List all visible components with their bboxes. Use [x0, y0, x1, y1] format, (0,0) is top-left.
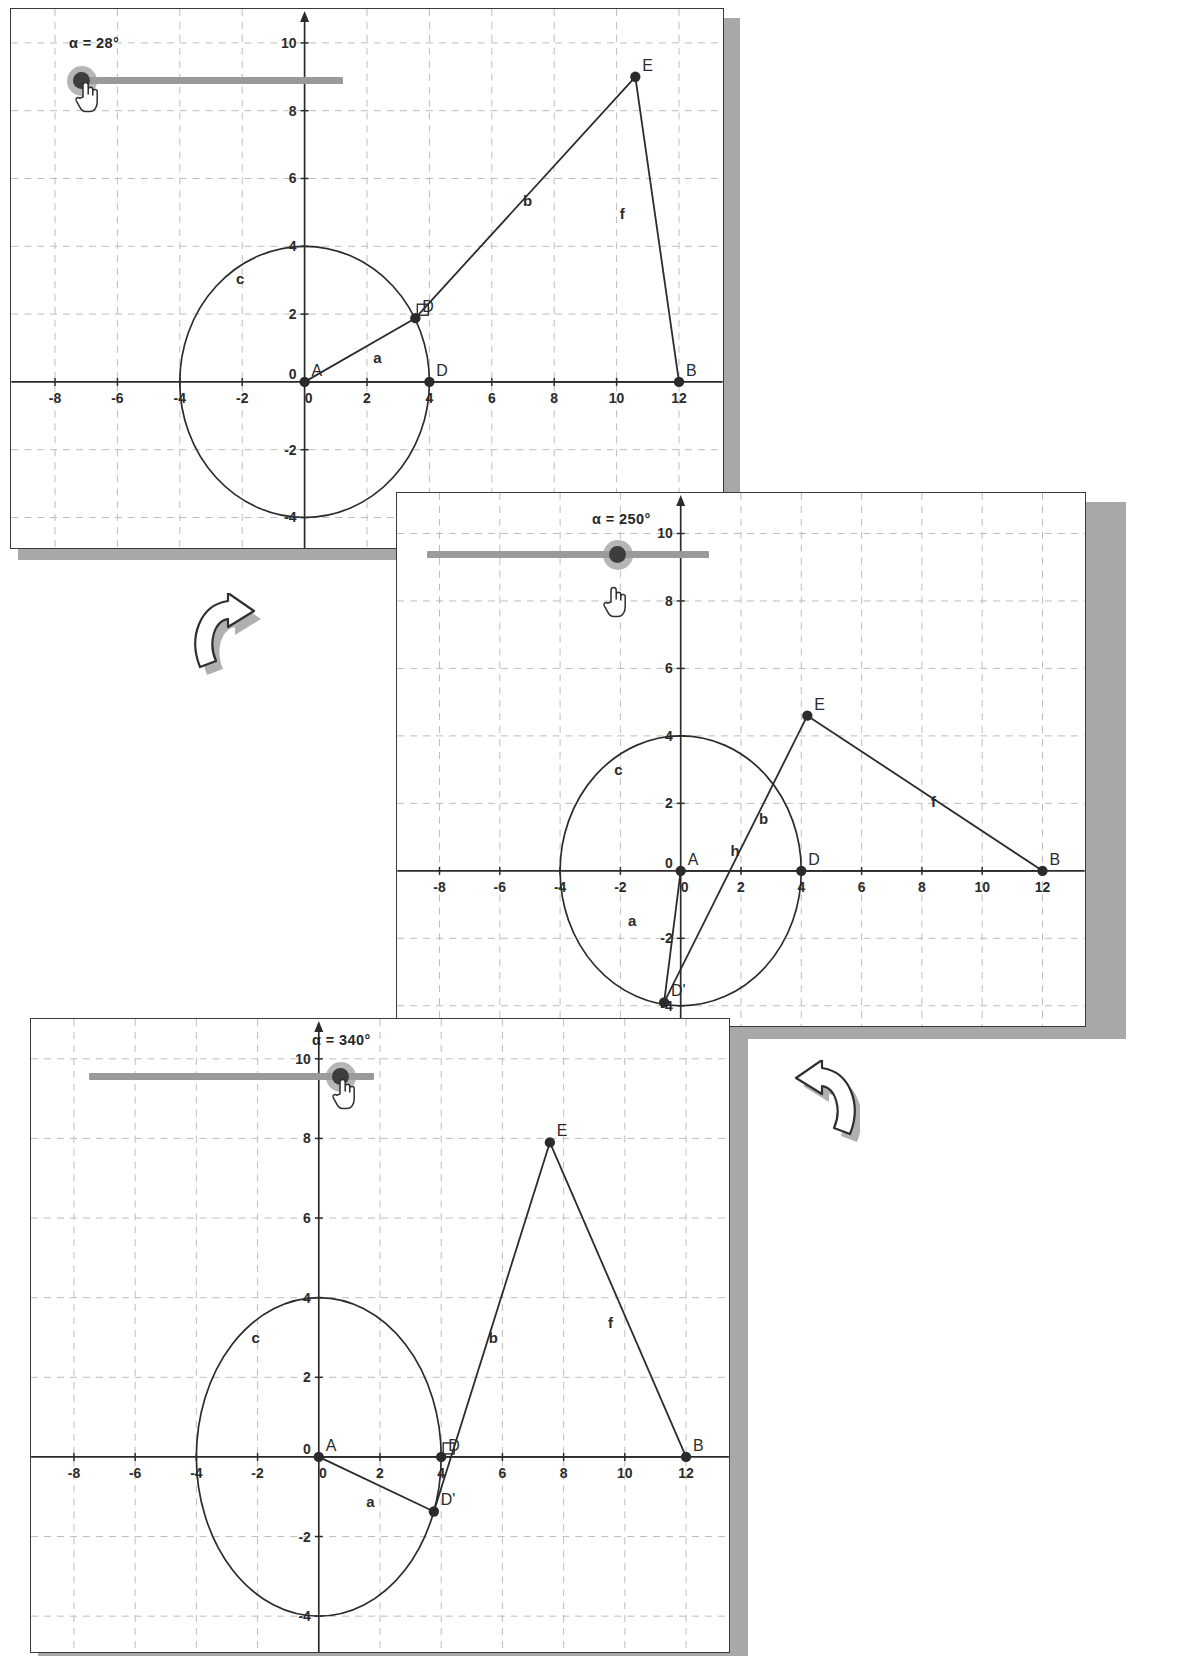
svg-text:-2: -2 — [298, 1529, 311, 1545]
svg-text:A: A — [326, 1437, 337, 1454]
svg-text:6: 6 — [858, 879, 866, 895]
svg-text:D: D — [436, 362, 448, 379]
cut-off-header-text: · · · · · — [215, 0, 280, 6]
svg-text:8: 8 — [303, 1130, 311, 1146]
svg-text:-6: -6 — [111, 390, 124, 406]
svg-text:12: 12 — [1035, 879, 1051, 895]
arrow-panel1-to-panel2 — [190, 593, 320, 681]
svg-text:E: E — [814, 696, 825, 713]
svg-text:a: a — [373, 349, 382, 366]
svg-text:B: B — [686, 362, 697, 379]
svg-text:0: 0 — [303, 1441, 311, 1457]
svg-text:8: 8 — [289, 103, 297, 119]
svg-text:2: 2 — [289, 306, 297, 322]
svg-text:-8: -8 — [433, 879, 446, 895]
svg-text:B: B — [1049, 851, 1060, 868]
panel-2-plot: -8-6-4-224681012-4-224681000cabfhADD'EB — [397, 493, 1085, 1026]
svg-text:10: 10 — [609, 390, 625, 406]
panel-1-slider-track[interactable] — [73, 77, 343, 84]
panel-2-slider-knob[interactable] — [609, 546, 626, 563]
svg-text:8: 8 — [560, 1465, 568, 1481]
svg-text:0: 0 — [289, 366, 297, 382]
panel-2-slider-label: α = 250° — [592, 511, 651, 527]
svg-text:12: 12 — [678, 1465, 694, 1481]
svg-text:8: 8 — [550, 390, 558, 406]
svg-text:D': D' — [671, 982, 686, 999]
svg-text:a: a — [628, 912, 637, 929]
svg-text:0: 0 — [665, 855, 673, 871]
svg-text:D: D — [422, 298, 434, 315]
svg-text:D: D — [448, 1437, 460, 1454]
svg-text:c: c — [614, 761, 622, 778]
svg-text:2: 2 — [737, 879, 745, 895]
svg-text:6: 6 — [303, 1210, 311, 1226]
svg-text:2: 2 — [363, 390, 371, 406]
svg-text:D: D — [808, 851, 820, 868]
svg-text:-6: -6 — [494, 879, 507, 895]
svg-text:6: 6 — [289, 170, 297, 186]
svg-text:-8: -8 — [49, 390, 62, 406]
svg-text:10: 10 — [617, 1465, 633, 1481]
panel-1-plot: -8-6-4-224681012-4-224681000cabfADDEB — [11, 9, 723, 548]
svg-text:f: f — [608, 1314, 613, 1331]
svg-text:-8: -8 — [68, 1465, 81, 1481]
hand-pointer-icon — [74, 81, 100, 113]
svg-text:c: c — [251, 1329, 259, 1346]
svg-text:E: E — [557, 1122, 568, 1139]
svg-text:-2: -2 — [614, 879, 627, 895]
cut-off-header-row: · · · · · — [0, 0, 1180, 6]
svg-text:a: a — [366, 1493, 375, 1510]
arrow-panel2-to-panel3 — [730, 1060, 860, 1150]
svg-text:E: E — [642, 57, 653, 74]
panel-2-slider-track[interactable] — [427, 551, 709, 558]
panel-3-geogebra-view[interactable]: -8-6-4-224681012-4-224681000cabfADD'EB α… — [30, 1018, 730, 1653]
svg-text:-2: -2 — [251, 1465, 264, 1481]
svg-text:12: 12 — [671, 390, 687, 406]
svg-text:b: b — [523, 192, 532, 209]
svg-text:-2: -2 — [236, 390, 249, 406]
svg-text:h: h — [730, 842, 739, 859]
svg-text:10: 10 — [295, 1051, 311, 1067]
svg-text:0: 0 — [319, 1465, 327, 1481]
svg-text:D': D' — [441, 1491, 456, 1508]
svg-text:2: 2 — [303, 1369, 311, 1385]
panel-1-slider-label: α = 28° — [69, 35, 119, 51]
svg-text:2: 2 — [376, 1465, 384, 1481]
svg-text:c: c — [236, 270, 244, 287]
svg-text:10: 10 — [974, 879, 990, 895]
panel-2-geogebra-view[interactable]: -8-6-4-224681012-4-224681000cabfhADD'EB … — [396, 492, 1086, 1027]
svg-text:f: f — [620, 205, 625, 222]
hand-pointer-icon — [602, 586, 628, 618]
svg-text:0: 0 — [305, 390, 313, 406]
svg-text:A: A — [312, 362, 323, 379]
svg-text:b: b — [759, 810, 768, 827]
svg-text:A: A — [688, 851, 699, 868]
svg-text:2: 2 — [665, 795, 673, 811]
svg-text:B: B — [693, 1437, 704, 1454]
panel-3-plot: -8-6-4-224681012-4-224681000cabfADD'EB — [31, 1019, 729, 1652]
svg-text:8: 8 — [918, 879, 926, 895]
hand-pointer-icon — [331, 1078, 357, 1110]
svg-text:f: f — [931, 793, 936, 810]
svg-text:10: 10 — [281, 35, 297, 51]
svg-text:6: 6 — [499, 1465, 507, 1481]
svg-text:-2: -2 — [284, 442, 297, 458]
svg-text:6: 6 — [488, 390, 496, 406]
svg-text:8: 8 — [665, 593, 673, 609]
svg-text:10: 10 — [657, 525, 673, 541]
svg-text:b: b — [489, 1329, 498, 1346]
svg-text:6: 6 — [665, 660, 673, 676]
svg-text:-6: -6 — [129, 1465, 142, 1481]
svg-text:0: 0 — [681, 879, 689, 895]
panel-1-geogebra-view[interactable]: -8-6-4-224681012-4-224681000cabfADDEB α … — [10, 8, 724, 549]
panel-3-slider-label: α = 340° — [312, 1032, 371, 1048]
